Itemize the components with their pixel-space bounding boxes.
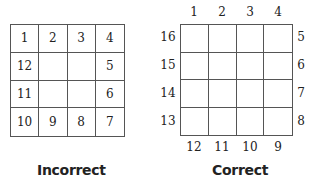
grid-cell <box>209 53 237 81</box>
right-label: 8 <box>291 114 311 128</box>
grid-cell: 3 <box>68 25 96 53</box>
grid-cell: 1 <box>11 25 39 53</box>
grid-cell: 7 <box>96 108 124 136</box>
grid-cell: 4 <box>96 25 124 53</box>
grid-cell <box>39 53 67 81</box>
grid-cell <box>68 53 96 81</box>
top-label: 2 <box>212 5 232 19</box>
grid-cell <box>68 81 96 109</box>
bottom-label: 10 <box>240 140 260 154</box>
bottom-label: 11 <box>212 140 232 154</box>
grid-cell: 12 <box>11 53 39 81</box>
left-label: 15 <box>158 58 178 72</box>
incorrect-grid: 123412511610987 <box>10 24 125 137</box>
grid-cell <box>237 53 265 81</box>
top-label: 1 <box>184 5 204 19</box>
grid-cell: 11 <box>11 81 39 109</box>
top-label: 3 <box>240 5 260 19</box>
grid-cell <box>209 25 237 53</box>
grid-cell: 6 <box>96 81 124 109</box>
top-label: 4 <box>268 5 288 19</box>
right-label: 7 <box>291 86 311 100</box>
grid-cell <box>237 80 265 108</box>
grid-cell <box>39 81 67 109</box>
correct-caption: Correct <box>212 162 268 178</box>
grid-cell <box>181 108 209 136</box>
grid-cell: 10 <box>11 108 39 136</box>
grid-cell: 2 <box>39 25 67 53</box>
left-label: 16 <box>158 30 178 44</box>
grid-cell <box>264 80 292 108</box>
correct-grid <box>180 24 293 136</box>
grid-cell <box>264 108 292 136</box>
grid-cell <box>209 108 237 136</box>
grid-cell: 5 <box>96 53 124 81</box>
right-label: 5 <box>291 30 311 44</box>
grid-cell <box>264 53 292 81</box>
bottom-label: 12 <box>184 140 204 154</box>
right-label: 6 <box>291 58 311 72</box>
grid-cell <box>209 80 237 108</box>
bottom-label: 9 <box>268 140 288 154</box>
grid-cell <box>237 108 265 136</box>
left-label: 14 <box>158 86 178 100</box>
grid-cell <box>181 53 209 81</box>
grid-cell <box>264 25 292 53</box>
grid-cell: 9 <box>39 108 67 136</box>
left-label: 13 <box>158 114 178 128</box>
incorrect-caption: Incorrect <box>37 162 106 178</box>
grid-cell <box>181 80 209 108</box>
grid-cell: 8 <box>68 108 96 136</box>
grid-cell <box>181 25 209 53</box>
grid-cell <box>237 25 265 53</box>
